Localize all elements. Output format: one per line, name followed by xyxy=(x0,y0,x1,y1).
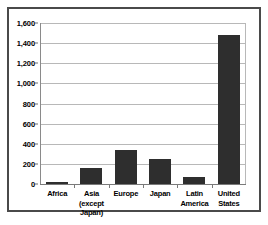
x-label-line: United xyxy=(212,189,246,199)
y-tick-mark-400 xyxy=(35,143,38,144)
x-tick-mark xyxy=(212,184,213,188)
y-tick-mark-200 xyxy=(35,163,38,164)
x-tick-mark xyxy=(74,184,75,188)
y-tick-label-800: 800 xyxy=(23,99,35,108)
y-tick-label-1200: 1,200 xyxy=(17,59,35,68)
x-label-line: Europe xyxy=(109,189,143,199)
bar-slot xyxy=(109,23,143,184)
x-label-line: Latin xyxy=(177,189,211,199)
x-label-japan: Japan xyxy=(143,189,177,199)
bar-japan xyxy=(149,159,171,184)
y-tick-mark-1400 xyxy=(35,43,38,44)
x-label-united-states: UnitedStates xyxy=(212,189,246,208)
x-label-line: Asia xyxy=(74,189,108,199)
y-tick-label-600: 600 xyxy=(23,119,35,128)
x-tick-mark xyxy=(177,184,178,188)
x-label-asia-except-japan: Asia(exceptJapan) xyxy=(74,189,108,218)
y-tick-label-1600: 1,600 xyxy=(17,19,35,28)
chart-plot-background: 02004006008001,0001,2001,4001,600 Africa… xyxy=(9,9,259,210)
x-tick-mark xyxy=(109,184,110,188)
bar-latin-america xyxy=(183,177,205,184)
x-label-latin-america: LatinAmerica xyxy=(177,189,211,208)
x-label-africa: Africa xyxy=(40,189,74,199)
bar-slot xyxy=(40,23,74,184)
bar-asia-except-japan xyxy=(80,168,102,184)
bar-slot xyxy=(212,23,246,184)
y-tick-mark-600 xyxy=(35,123,38,124)
y-tick-mark-1600 xyxy=(35,23,38,24)
bar-slot xyxy=(143,23,177,184)
x-label-line: (except xyxy=(74,199,108,209)
x-label-line: Africa xyxy=(40,189,74,199)
bars-layer xyxy=(40,23,246,184)
y-tick-mark-0 xyxy=(35,184,38,185)
x-tick-mark xyxy=(143,184,144,188)
y-tick-mark-1000 xyxy=(35,83,38,84)
bar-united-states xyxy=(218,35,240,184)
bar-chart-figure: 02004006008001,0001,2001,4001,600 Africa… xyxy=(7,7,261,212)
x-label-line: Japan) xyxy=(74,208,108,218)
x-label-line: America xyxy=(177,199,211,209)
x-label-line: Japan xyxy=(143,189,177,199)
plot-area xyxy=(40,23,246,184)
y-axis-tick-labels: 02004006008001,0001,2001,4001,600 xyxy=(9,23,38,184)
y-tick-mark-800 xyxy=(35,103,38,104)
bar-slot xyxy=(177,23,211,184)
bar-slot xyxy=(74,23,108,184)
x-label-europe: Europe xyxy=(109,189,143,199)
x-axis-tick-marks xyxy=(40,184,246,188)
y-tick-label-400: 400 xyxy=(23,139,35,148)
y-tick-label-1400: 1,400 xyxy=(17,39,35,48)
y-tick-mark-1200 xyxy=(35,63,38,64)
y-tick-label-1000: 1,000 xyxy=(17,79,35,88)
x-axis-category-labels: AfricaAsia(exceptJapan)EuropeJapanLatinA… xyxy=(40,189,246,225)
x-label-line: States xyxy=(212,199,246,209)
bar-europe xyxy=(115,150,137,184)
y-tick-label-200: 200 xyxy=(23,159,35,168)
